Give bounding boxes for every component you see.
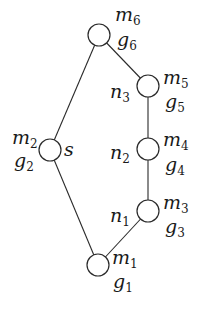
label-m3: m3: [163, 193, 189, 212]
label-g5: g5: [165, 92, 185, 111]
label-g5-sub: 5: [177, 101, 185, 115]
label-m1: m1: [112, 248, 138, 267]
label-g4: g4: [165, 155, 185, 174]
label-m3-sub: 3: [181, 202, 189, 216]
label-m6-base: m: [115, 3, 133, 25]
label-m2-base: m: [12, 126, 30, 148]
label-m1-sub: 1: [130, 257, 138, 271]
label-g1-base: g: [113, 270, 125, 292]
label-n3-base: n: [110, 80, 122, 102]
label-m4-base: m: [163, 128, 181, 150]
label-m3-base: m: [163, 191, 181, 213]
label-g2-sub: 2: [26, 160, 34, 174]
label-m5-base: m: [163, 66, 181, 88]
node-v4: [137, 138, 159, 160]
edge-v6-v2: [50, 35, 99, 150]
label-g6-base: g: [117, 28, 129, 50]
label-m4-sub: 4: [181, 139, 189, 153]
node-v2: [39, 139, 61, 161]
label-m1-base: m: [112, 246, 130, 268]
node-v6: [88, 24, 110, 46]
label-g1: g1: [113, 272, 133, 291]
label-n1-sub: 1: [122, 215, 130, 229]
label-m4: m4: [163, 130, 189, 149]
node-v1: [87, 254, 109, 276]
node-v5: [137, 75, 159, 97]
label-m5-sub: 5: [181, 77, 189, 91]
label-m5: m5: [163, 68, 189, 87]
label-g6: g6: [117, 30, 137, 49]
label-n3: n3: [110, 82, 130, 101]
label-s-base: s: [64, 138, 74, 160]
label-g1-sub: 1: [125, 281, 133, 295]
label-s: s: [64, 140, 74, 159]
label-m6-sub: 6: [133, 14, 141, 28]
label-g3: g3: [165, 217, 185, 236]
label-n2-base: n: [110, 141, 122, 163]
label-n3-sub: 3: [122, 91, 130, 105]
label-m2-sub: 2: [30, 137, 38, 151]
label-m2: m2: [12, 128, 38, 147]
label-n1-base: n: [110, 204, 122, 226]
label-m6: m6: [115, 5, 141, 24]
label-g2: g2: [14, 151, 34, 170]
label-g5-base: g: [165, 90, 177, 112]
nodes: [39, 24, 159, 276]
edge-v2-v1: [50, 150, 98, 265]
label-n2: n2: [110, 143, 130, 162]
label-n2-sub: 2: [122, 152, 130, 166]
label-g6-sub: 6: [129, 39, 137, 53]
label-n1: n1: [110, 206, 130, 225]
node-v3: [137, 200, 159, 222]
label-g2-base: g: [14, 149, 26, 171]
label-g3-base: g: [165, 215, 177, 237]
label-g4-sub: 4: [177, 164, 185, 178]
label-g3-sub: 3: [177, 226, 185, 240]
label-g4-base: g: [165, 153, 177, 175]
